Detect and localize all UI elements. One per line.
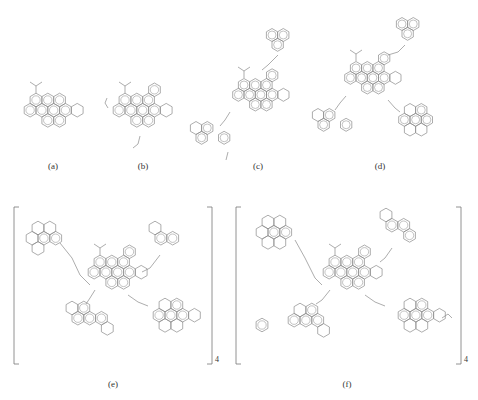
ethyl-bond <box>226 152 228 160</box>
aromatic-circle <box>388 221 396 229</box>
alkyl-chain <box>142 255 160 272</box>
aromatic-circle <box>220 134 228 142</box>
core-ring-f <box>370 265 382 279</box>
aromatic-circle <box>40 234 48 242</box>
aromatic-circle <box>167 311 175 319</box>
aromatic-circle <box>234 91 242 99</box>
aromatic-circle <box>358 74 366 82</box>
alkyl-chain <box>335 96 346 110</box>
aromatic-circle <box>55 116 63 124</box>
aromatic-circle <box>375 84 383 92</box>
aromatic-circle <box>263 81 271 89</box>
pendant-ring-f <box>404 319 416 333</box>
aromatic-circle <box>51 234 59 242</box>
aromatic-circle <box>360 248 368 256</box>
panel-label-c: (c) <box>253 161 263 171</box>
aromatic-circle <box>113 268 121 276</box>
aromatic-circle <box>369 74 377 82</box>
ethyl-bond <box>105 98 108 108</box>
aromatic-circle <box>360 268 368 276</box>
core-ring-c <box>278 88 289 101</box>
aromatic-circle <box>268 31 276 39</box>
aromatic-circle <box>74 314 82 322</box>
alkyl-chain <box>388 45 405 55</box>
aromatic-circle <box>405 231 413 239</box>
pendant-ring-f <box>274 236 286 250</box>
panel-label-f: (f) <box>343 379 352 389</box>
aromatic-circle <box>157 234 165 242</box>
alkyl-chain <box>365 295 385 306</box>
isopropyl-bond <box>350 50 362 54</box>
aromatic-circle <box>150 106 158 114</box>
isopropyl-bond <box>94 244 106 248</box>
aromatic-circle <box>125 268 133 276</box>
aromatic-circle <box>150 86 158 94</box>
aromatic-circle <box>203 124 211 132</box>
pendant-ring-d <box>416 123 427 136</box>
aromatic-circle <box>418 301 426 309</box>
aromatic-circle <box>346 74 354 82</box>
panel-label-a: (a) <box>48 161 58 171</box>
aromatic-circle <box>375 64 383 72</box>
pendant-ring-e <box>32 242 44 256</box>
aromatic-circle <box>198 134 206 142</box>
alkyl-chain <box>86 290 95 304</box>
aromatic-circle <box>337 268 345 276</box>
aromatic-circle <box>90 268 98 276</box>
aromatic-circle <box>80 304 88 312</box>
pendant-ring-e <box>101 322 113 336</box>
aromatic-circle <box>44 96 52 104</box>
alkyl-chain <box>380 248 392 262</box>
aromatic-circle <box>96 258 104 266</box>
aromatic-circle <box>144 116 152 124</box>
panel-label-b: (b) <box>138 161 149 171</box>
aromatic-circle <box>363 84 371 92</box>
aromatic-circle <box>302 316 310 324</box>
aromatic-circle <box>173 301 181 309</box>
aromatic-circle <box>409 20 417 28</box>
alkyl-chain <box>60 243 90 285</box>
alkyl-chain <box>262 55 278 70</box>
aromatic-circle <box>268 91 276 99</box>
aromatic-circle <box>119 278 127 286</box>
pendant-ring-f <box>416 319 428 333</box>
aromatic-circle <box>115 106 123 114</box>
isopropyl-bond <box>329 244 341 248</box>
aromatic-circle <box>398 20 406 28</box>
pendant-ring-e <box>171 319 183 333</box>
aromatic-circle <box>400 116 408 124</box>
aromatic-circle <box>263 101 271 109</box>
core-ring-e <box>135 265 147 279</box>
pendant-ring-f <box>262 236 274 250</box>
aromatic-circle <box>133 116 141 124</box>
aromatic-circle <box>108 258 116 266</box>
molecular-structures-diagram <box>0 0 478 400</box>
aromatic-circle <box>412 116 420 124</box>
aromatic-circle <box>342 121 350 129</box>
aromatic-circle <box>102 268 110 276</box>
aromatic-circle <box>274 41 282 49</box>
ethyl-bond <box>442 314 452 318</box>
aromatic-circle <box>144 96 152 104</box>
aromatic-circle <box>281 228 289 236</box>
aromatic-circle <box>423 311 431 319</box>
core-ring-b <box>160 103 172 117</box>
aromatic-circle <box>308 306 316 314</box>
aromatic-circle <box>97 314 105 322</box>
pendant-ring-f <box>434 308 446 322</box>
aromatic-circle <box>108 278 116 286</box>
aromatic-circle <box>121 96 129 104</box>
aromatic-circle <box>26 106 34 114</box>
aromatic-circle <box>354 258 362 266</box>
alkyl-chain <box>295 240 322 285</box>
aromatic-circle <box>343 258 351 266</box>
aromatic-circle <box>412 311 420 319</box>
aromatic-circle <box>168 234 176 242</box>
aromatic-circle <box>380 54 388 62</box>
aromatic-circle <box>155 311 163 319</box>
aromatic-circle <box>404 30 412 38</box>
bracket-right-e <box>207 207 212 364</box>
pendant-ring-d <box>404 123 415 136</box>
aromatic-circle <box>55 96 63 104</box>
pendant-ring-e <box>159 319 171 333</box>
